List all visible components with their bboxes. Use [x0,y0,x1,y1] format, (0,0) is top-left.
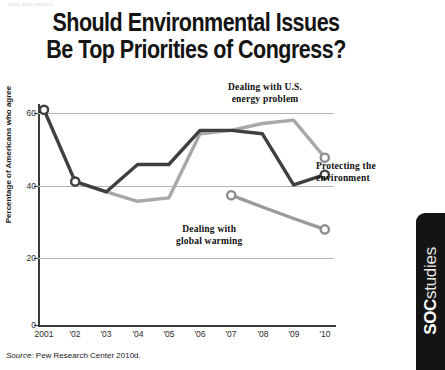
x-axis-line [38,325,336,327]
side-tab-text: SOCstudies [421,213,441,370]
figure-page: line and minor Should Environmental Issu… [0,0,445,370]
source-text: Pew Research Center 2010d. [34,351,141,360]
side-tab-regular: studies [421,247,440,299]
x-tick-label-2006: '06 [184,329,216,339]
marker-protect-2002 [71,178,79,186]
y-tick-label-20: 20 [14,253,36,263]
line-global-warming [231,195,325,229]
x-tick-label-2001: 2001 [28,329,60,339]
source-prefix: Source: [6,351,34,360]
y-tick-label-60: 60 [14,108,36,118]
series-lines [38,104,334,325]
x-tick-label-2010: '10 [309,329,341,339]
y-tick-label-40: 40 [14,181,36,191]
plot-region [38,104,334,325]
annotation-global-warming: Dealing with global warming [176,224,242,247]
x-tick-label-2004: '04 [122,329,154,339]
annotation-warming-line2: global warming [176,236,242,248]
x-tick-label-2003: '03 [90,329,122,339]
y-axis-label: Percentage of Americans who agree [4,55,13,255]
marker-warming-2010 [321,225,329,233]
x-tick-label-2008: '08 [247,329,279,339]
x-tick-label-2005: '05 [153,329,185,339]
side-tab-bold: SOC [421,299,440,335]
annotation-warming-line1: Dealing with [176,224,242,236]
x-tick-label-2009: '09 [278,329,310,339]
annotation-energy-line1: Dealing with U.S. [228,82,302,94]
annotation-protect-line1: Protecting the [316,161,376,173]
x-tick-label-2002: '02 [59,329,91,339]
annotation-energy-problem: Dealing with U.S. energy problem [228,82,302,105]
x-tick-label-2007: '07 [215,329,247,339]
annotation-protect-line2: environment [316,173,376,185]
annotation-protect-environment: Protecting the environment [316,161,376,184]
chart-canvas: Percentage of Americans who agree [0,0,445,370]
side-tab-socstudies: SOCstudies [416,213,445,370]
source-note: Source: Pew Research Center 2010d. [6,351,141,360]
marker-warming-2007 [227,191,235,199]
annotation-energy-line2: energy problem [228,94,302,106]
marker-protect-2001 [40,106,48,114]
